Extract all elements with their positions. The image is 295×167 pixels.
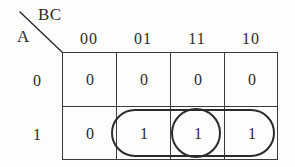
column-variable-label: BC xyxy=(38,6,61,23)
kmap-cell-A1-BC00: 0 xyxy=(63,107,117,161)
row-header-0: 0 xyxy=(20,73,54,89)
column-header-11: 11 xyxy=(170,31,224,47)
column-header-01: 01 xyxy=(116,31,170,47)
row-variable-label: A xyxy=(17,28,30,45)
column-header-00: 00 xyxy=(62,31,116,47)
kmap-cell-A0-BC00: 0 xyxy=(63,53,117,107)
column-header-10: 10 xyxy=(224,31,278,47)
karnaugh-map-diagram: BC A 00 01 11 10 0 1 0 0 0 0 0 1 1 1 xyxy=(0,0,295,167)
kmap-grid: 0 0 0 0 0 1 1 1 xyxy=(62,52,278,160)
kmap-cell-A0-BC10: 0 xyxy=(225,53,279,107)
kmap-cell-A0-BC01: 0 xyxy=(117,53,171,107)
kmap-cell-A0-BC11: 0 xyxy=(171,53,225,107)
kmap-cell-A1-BC10: 1 xyxy=(225,107,279,161)
kmap-cell-A1-BC01: 1 xyxy=(117,107,171,161)
corner-header: BC A xyxy=(0,0,70,54)
kmap-cell-A1-BC11: 1 xyxy=(171,107,225,161)
row-header-1: 1 xyxy=(20,127,54,143)
